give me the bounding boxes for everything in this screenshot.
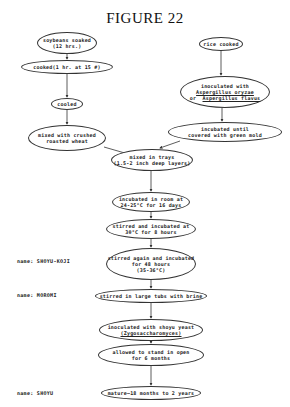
- node-stirred-incubated: stirred and incubated at 30°C for 8 hour…: [106, 219, 196, 239]
- node-text: cooled: [57, 101, 76, 107]
- node-text: (35-36°C): [137, 267, 166, 273]
- node-text-species: (Zygosaccharomyces): [121, 330, 182, 336]
- node-stand-open: allowed to stand in open for 6 months: [98, 344, 204, 366]
- or-text: or: [190, 95, 196, 101]
- node-text: mature—18 months to 2 years: [108, 390, 195, 396]
- node-incubated-green-mold: incubated until covered with green mold: [168, 122, 282, 142]
- node-text: stirred in large tubs with brine: [100, 293, 203, 299]
- label-shoyu-koji: name: SHOYU-KOJI: [17, 258, 70, 264]
- node-text: 30°C for 8 hours: [125, 229, 176, 235]
- node-mature: mature—18 months to 2 years: [101, 386, 201, 400]
- node-cooled: cooled: [51, 98, 83, 110]
- node-soybeans-soaked: soybeans soaked (12 hrs.): [37, 32, 97, 54]
- label-shoyu: name: SHOYU: [17, 390, 53, 396]
- node-mixed-wheat: mixed with crushed roasted wheat: [28, 125, 106, 151]
- node-text: (1.5-2 inch deep layers): [113, 160, 190, 166]
- node-text: cooked(1 hr. at 15 #): [33, 64, 100, 70]
- node-text-species: Aspergillus flavus: [203, 95, 261, 101]
- node-text: (12 hrs.): [53, 43, 82, 49]
- node-incubated-room: incubated in room at 24-25°C for 16 days: [112, 192, 190, 212]
- label-moromi: name: MOROMI: [17, 292, 57, 298]
- node-large-tubs: stirred in large tubs with brine: [95, 289, 207, 303]
- node-shoyu-yeast: inoculated with shoyu yeast (Zygosacchar…: [99, 319, 203, 341]
- node-text: covered with green mold: [188, 132, 262, 138]
- node-text: rice cooked: [203, 41, 238, 47]
- node-mixed-trays: mixed in trays (1.5-2 inch deep layers): [111, 149, 193, 171]
- node-text: for 6 months: [132, 355, 171, 361]
- node-text: roasted wheat: [46, 138, 88, 144]
- node-text-alt: or Aspergillus flavus: [190, 95, 261, 101]
- node-text: 24-25°C for 16 days: [121, 202, 182, 208]
- node-cooked: cooked(1 hr. at 15 #): [21, 60, 113, 74]
- node-rice-cooked: rice cooked: [199, 37, 243, 51]
- node-inoculated-aspergillus: inoculated with Aspergillus oryzae or As…: [180, 76, 270, 108]
- node-stirred-again: stirred again and incubated for 48 hours…: [106, 248, 196, 280]
